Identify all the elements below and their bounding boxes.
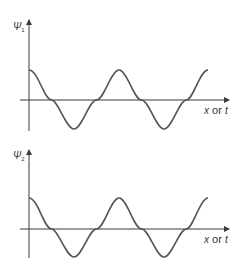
wave-diagram: Ψ1 x or t Ψ2 x or t xyxy=(0,0,249,265)
wave-curve-psi2 xyxy=(29,198,208,257)
panel-psi2: Ψ2 x or t xyxy=(13,150,229,258)
y-axis-label: Ψ2 xyxy=(13,150,25,162)
x-axis-label: x or t xyxy=(203,104,229,116)
x-axis-label: x or t xyxy=(203,233,229,245)
panel-psi1: Ψ1 x or t xyxy=(13,20,229,131)
y-axis-label: Ψ1 xyxy=(13,21,25,33)
